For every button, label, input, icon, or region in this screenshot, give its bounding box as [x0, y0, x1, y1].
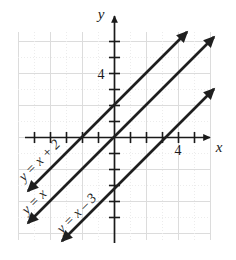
line-label-y-eq-x-minus-3: y = x – 3 — [52, 190, 99, 237]
line-y-eq-x-plus-2 — [28, 32, 187, 191]
y-tick-label-4: 4 — [98, 67, 105, 82]
line-graph-figure: y x 4 4 y = x + 2 y = x y = x – 3 — [0, 0, 236, 260]
line-y-eq-x — [28, 37, 214, 223]
line-label-y-eq-x-plus-2: y = x + 2 — [14, 137, 63, 186]
x-tick-label-4: 4 — [175, 143, 182, 158]
x-axis-label: x — [215, 139, 223, 155]
y-axis-label: y — [96, 6, 105, 22]
coordinate-plane: y x 4 4 y = x + 2 y = x y = x – 3 — [0, 0, 236, 260]
line-label-y-eq-x: y = x — [17, 186, 50, 219]
